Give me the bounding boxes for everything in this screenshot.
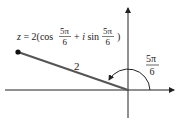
equation-suffix: ): [117, 31, 120, 43]
equation-frac1-num: 5π: [60, 26, 70, 36]
modulus-segment: [18, 52, 128, 90]
equation-middle: + i sin: [74, 31, 99, 42]
complex-plane-diagram: 2 5π 6 z = 2(cos 5π 6 + i sin 5π 6 ): [0, 0, 177, 123]
angle-label-numerator: 5π: [146, 53, 156, 64]
equation-frac1-den: 6: [63, 37, 68, 47]
equation-frac2-den: 6: [106, 37, 111, 47]
equation-prefix: z = 2(cos: [16, 31, 53, 43]
equation-frac2-num: 5π: [103, 26, 113, 36]
angle-arc: [109, 69, 150, 90]
segment-length-label: 2: [74, 60, 80, 72]
equation-rest: = 2(cos: [21, 31, 53, 43]
point-z: [15, 49, 20, 54]
angle-label-denominator: 6: [150, 66, 155, 77]
